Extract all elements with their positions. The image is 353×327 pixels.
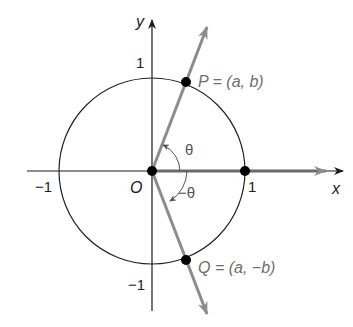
x-tick-neg-1: −1 xyxy=(35,178,52,195)
y-tick-1: 1 xyxy=(136,54,144,71)
x-tick-1: 1 xyxy=(248,178,256,195)
point-one-zero xyxy=(240,166,250,176)
origin-point xyxy=(147,166,157,176)
neg-theta-label: −θ xyxy=(178,184,195,201)
y-tick-neg-1: −1 xyxy=(128,276,145,293)
p-label: P = (a, b) xyxy=(198,73,264,90)
point-q xyxy=(181,255,191,265)
point-p xyxy=(181,77,191,87)
x-axis-label: x xyxy=(331,180,341,197)
theta-label: θ xyxy=(185,141,193,158)
unit-circle-diagram: y x 1 −1 −1 1 O θ −θ P = (a, b) Q = (a, … xyxy=(0,0,353,327)
origin-label: O xyxy=(130,179,142,196)
y-axis-label: y xyxy=(135,13,145,30)
ray-through-p xyxy=(152,27,207,171)
q-label: Q = (a, −b) xyxy=(198,259,275,276)
theta-arc xyxy=(163,145,180,171)
